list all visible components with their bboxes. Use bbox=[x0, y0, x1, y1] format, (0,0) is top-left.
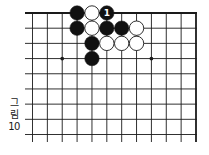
stone-disc bbox=[100, 36, 114, 50]
black-stone bbox=[114, 21, 128, 35]
black-stone bbox=[70, 21, 84, 35]
black-stone bbox=[85, 51, 99, 65]
go-board: 1 bbox=[0, 0, 209, 155]
stone-disc bbox=[70, 21, 84, 35]
stone-disc bbox=[129, 21, 143, 35]
star-point bbox=[150, 57, 154, 61]
white-stone bbox=[85, 21, 99, 35]
white-stone bbox=[100, 36, 114, 50]
stone-disc bbox=[85, 21, 99, 35]
stone-disc bbox=[70, 6, 84, 20]
star-point bbox=[60, 57, 64, 61]
black-stone bbox=[100, 21, 114, 35]
move-number: 1 bbox=[104, 8, 110, 18]
black-stone bbox=[85, 36, 99, 50]
white-stone bbox=[85, 6, 99, 20]
white-stone bbox=[114, 36, 128, 50]
stone-disc bbox=[85, 6, 99, 20]
stone-disc bbox=[129, 36, 143, 50]
figure-caption: 그 림 10 bbox=[4, 97, 24, 133]
stone-disc bbox=[100, 21, 114, 35]
stone-disc bbox=[114, 21, 128, 35]
figure-number: 10 bbox=[4, 121, 24, 133]
stone-disc bbox=[114, 36, 128, 50]
black-stone: 1 bbox=[100, 6, 114, 20]
caption-char-1: 그 bbox=[4, 97, 24, 109]
white-stone bbox=[129, 21, 143, 35]
caption-char-2: 림 bbox=[4, 109, 24, 121]
white-stone bbox=[129, 36, 143, 50]
stone-disc bbox=[85, 51, 99, 65]
stone-disc bbox=[85, 36, 99, 50]
black-stone bbox=[70, 6, 84, 20]
